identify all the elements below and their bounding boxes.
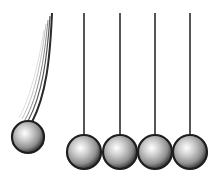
resting-balls [67,13,207,169]
pendulum-1 [67,13,101,169]
motion-trail [19,13,52,122]
pendulum-3 [138,13,172,169]
ball [103,135,137,169]
ball [138,135,172,169]
pendulum-4 [173,13,207,169]
swinging-ball [12,121,44,153]
newtons-cradle-illustration [0,0,218,183]
pendulum-2 [103,13,137,169]
ball [173,135,207,169]
ball [67,135,101,169]
